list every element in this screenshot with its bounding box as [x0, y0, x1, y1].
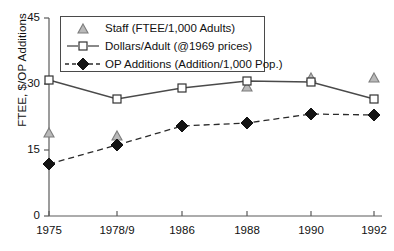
legend-key-square-icon [61, 37, 105, 55]
y-tick-label-30: 30 [14, 77, 40, 89]
x-axis-ticks [49, 211, 374, 216]
chart-container: FTEE, $/OP Additions 45 30 15 0 1975 197… [0, 0, 394, 251]
x-tick-label-1978-9: 1978/9 [87, 224, 147, 236]
series-markers-dollars-adult [45, 76, 378, 103]
legend-key-diamond-icon [61, 55, 105, 73]
x-tick-label-1986: 1986 [152, 224, 212, 236]
legend-label-op-additions: OP Additions (Addition/1,000 Pop.) [105, 58, 283, 70]
legend-item-op-additions: OP Additions (Addition/1,000 Pop.) [61, 55, 264, 73]
y-tick-label-0: 0 [14, 209, 40, 221]
y-axis-ticks [44, 18, 49, 216]
x-tick-label-1988: 1988 [217, 224, 277, 236]
legend-item-staff: Staff (FTEE/1,000 Adults) [61, 19, 264, 37]
series-line-op-additions [49, 114, 374, 164]
legend-label-staff: Staff (FTEE/1,000 Adults) [105, 22, 235, 34]
x-tick-label-1990: 1990 [281, 224, 341, 236]
series-markers-op-additions [43, 108, 380, 170]
y-tick-label-45: 45 [14, 11, 40, 23]
series-markers-staff [44, 73, 379, 140]
legend-item-dollars-adult: Dollars/Adult (@1969 prices) [61, 37, 264, 55]
legend: Staff (FTEE/1,000 Adults) Dollars/Adult … [60, 16, 265, 72]
x-tick-label-1975: 1975 [19, 224, 79, 236]
x-tick-label-1992: 1992 [344, 224, 394, 236]
legend-label-dollars-adult: Dollars/Adult (@1969 prices) [105, 40, 252, 52]
series-line-dollars-adult [49, 80, 374, 99]
legend-key-triangle-icon [61, 19, 105, 37]
y-tick-label-15: 15 [14, 143, 40, 155]
